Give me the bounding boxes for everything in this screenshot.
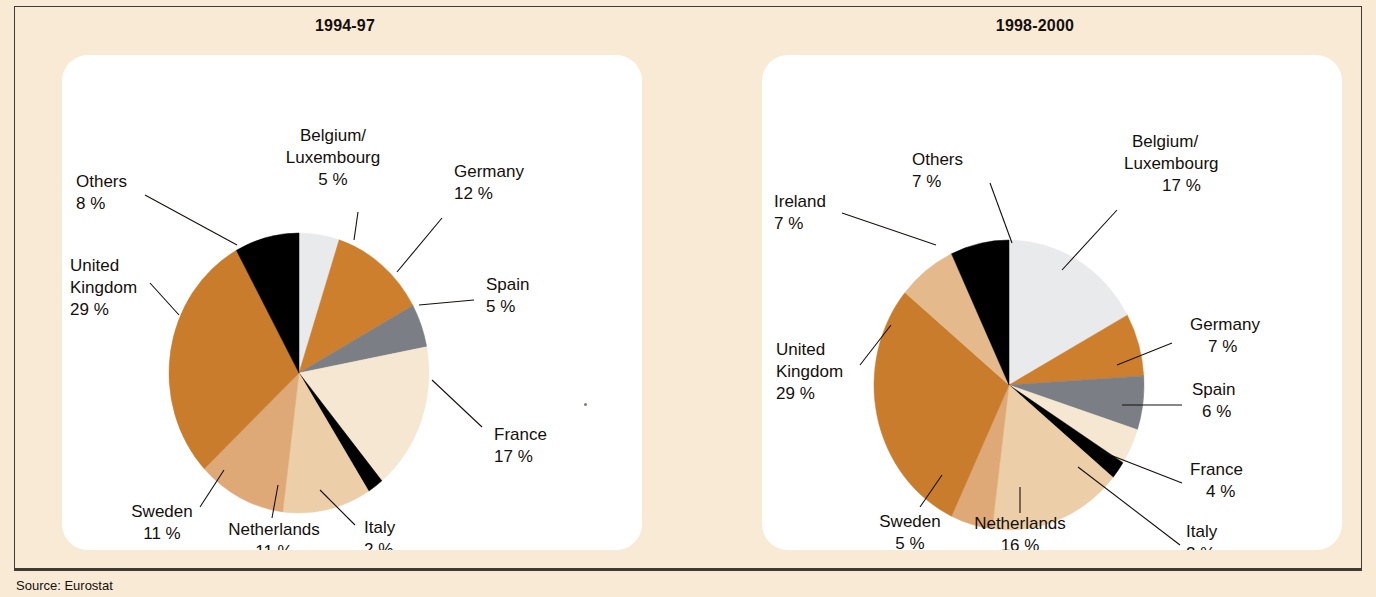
label-netherlands-left-value: 11 % bbox=[255, 542, 293, 550]
label-belgium-left-value: 5 % bbox=[318, 170, 347, 189]
label-belgium-right-line2: Luxembourg bbox=[1124, 154, 1219, 173]
label-uk-left-line1: United bbox=[70, 256, 119, 275]
label-ireland-right-value: 7 % bbox=[774, 214, 803, 233]
label-france-left-value: 17 % bbox=[494, 447, 533, 466]
label-uk-left-line2: Kingdom bbox=[70, 278, 137, 297]
label-others-left-value: 8 % bbox=[76, 194, 105, 213]
label-sweden-left-value: 11 % bbox=[143, 524, 181, 543]
label-italy-left-value: 2 % bbox=[364, 540, 393, 550]
label-spain-left-name: Spain bbox=[486, 275, 529, 294]
label-others-left-name: Others bbox=[76, 172, 127, 191]
leader-others-right bbox=[990, 183, 1012, 243]
label-italy-right-name: Italy bbox=[1186, 522, 1218, 541]
label-sweden-right-name: Sweden bbox=[879, 512, 940, 531]
label-italy-right-value: 2 % bbox=[1186, 544, 1215, 550]
label-spain-left-value: 5 % bbox=[486, 297, 515, 316]
label-netherlands-right-name: Netherlands bbox=[974, 514, 1066, 533]
leader-others-left bbox=[145, 195, 237, 245]
pie-chart-1994-97: Belgium/ Luxembourg 5 % Germany 12 % Spa… bbox=[62, 55, 642, 550]
label-spain-right-name: Spain bbox=[1192, 380, 1235, 399]
leader-italy-right bbox=[1078, 467, 1180, 545]
leader-uk-left bbox=[150, 283, 179, 315]
leader-ireland-right bbox=[842, 213, 936, 245]
leader-belgium-right bbox=[1062, 210, 1117, 270]
label-netherlands-right-value: 16 % bbox=[1001, 536, 1040, 550]
figure-bottom-rule bbox=[14, 569, 1362, 571]
label-netherlands-left-name: Netherlands bbox=[228, 520, 320, 539]
pie-slices-left bbox=[169, 233, 429, 513]
label-belgium-left-line1: Belgium/ bbox=[300, 126, 366, 145]
pie-chart-figure: 1994-97 1998-2000 Belgium/ Luxembourg 5 … bbox=[0, 0, 1376, 597]
label-ireland-right-name: Ireland bbox=[774, 192, 826, 211]
label-uk-right-line2: Kingdom bbox=[776, 362, 843, 381]
label-belgium-right-line1: Belgium/ bbox=[1132, 132, 1198, 151]
source-note: Source: Eurostat bbox=[16, 578, 113, 593]
label-france-right-name: France bbox=[1190, 460, 1243, 479]
label-spain-right-value: 6 % bbox=[1202, 402, 1231, 421]
label-germany-left-name: Germany bbox=[454, 162, 524, 181]
label-belgium-left-line2: Luxembourg bbox=[286, 148, 381, 167]
label-uk-left-value: 29 % bbox=[70, 300, 109, 319]
pie-chart-1998-2000: Belgium/ Luxembourg 17 % Germany 7 % Spa… bbox=[762, 55, 1342, 550]
chart-title-left: 1994-97 bbox=[245, 17, 445, 35]
label-belgium-right-value: 17 % bbox=[1162, 176, 1201, 195]
label-sweden-right-value: 5 % bbox=[895, 534, 924, 550]
leader-germany-left bbox=[397, 218, 442, 272]
label-italy-left-name: Italy bbox=[364, 518, 396, 537]
leader-france-left bbox=[432, 380, 482, 427]
chart-title-right: 1998-2000 bbox=[935, 17, 1135, 35]
label-uk-right-line1: United bbox=[776, 340, 825, 359]
leader-spain-left bbox=[419, 300, 474, 305]
label-germany-right-name: Germany bbox=[1190, 315, 1260, 334]
label-uk-right-value: 29 % bbox=[776, 384, 815, 403]
label-france-left-name: France bbox=[494, 425, 547, 444]
label-germany-right-value: 7 % bbox=[1208, 337, 1237, 356]
label-others-right-name: Others bbox=[912, 150, 963, 169]
label-germany-left-value: 12 % bbox=[454, 184, 493, 203]
label-others-right-value: 7 % bbox=[912, 172, 941, 191]
leader-belgium-left bbox=[354, 212, 358, 240]
label-sweden-left-name: Sweden bbox=[131, 502, 192, 521]
label-france-right-value: 4 % bbox=[1206, 482, 1235, 501]
